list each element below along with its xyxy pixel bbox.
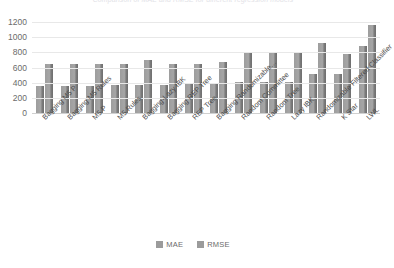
legend-item-mae[interactable]: MAE — [156, 240, 183, 249]
legend-swatch-icon — [156, 241, 163, 248]
y-axis-tick-label: 200 — [0, 93, 27, 102]
chart-title: Comparison of MAE and RMSE for different… — [0, 0, 386, 8]
gridline — [32, 37, 380, 38]
x-axis-labels: Bagging M5 PBagging M5 RulesM5 PM5 Rules… — [32, 116, 380, 216]
legend-swatch-icon — [197, 241, 204, 248]
y-axis-tick-label: 1200 — [0, 18, 27, 27]
y-axis: 020040060080010001200 — [0, 0, 30, 268]
gridline — [32, 52, 380, 53]
bar-mae[interactable] — [111, 85, 119, 113]
legend-label: RMSE — [207, 240, 229, 249]
chart-legend: MAERMSE — [0, 240, 386, 249]
y-axis-tick-label: 600 — [0, 63, 27, 72]
legend-item-rmse[interactable]: RMSE — [197, 240, 229, 249]
bar-mae[interactable] — [309, 74, 317, 113]
gridline — [32, 22, 380, 23]
y-axis-tick-label: 800 — [0, 48, 27, 57]
y-axis-tick-label: 400 — [0, 78, 27, 87]
legend-label: MAE — [166, 240, 183, 249]
gridline — [32, 68, 380, 69]
y-axis-tick-label: 1000 — [0, 33, 27, 42]
y-axis-tick-label: 0 — [0, 109, 27, 118]
bar-mae[interactable] — [36, 86, 44, 113]
